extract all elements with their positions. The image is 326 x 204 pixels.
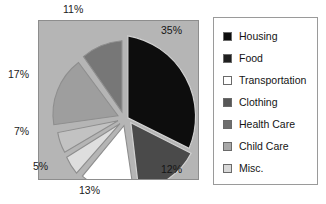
pie-chart-figure: 11% 17% 7% 5% 13% 35% 12% Housing Food T… xyxy=(0,0,326,204)
pie-svg xyxy=(39,21,198,179)
legend-label-food: Food xyxy=(239,53,263,64)
legend-label-clothing: Clothing xyxy=(239,97,278,108)
slice-label-housing: 35% xyxy=(161,24,182,36)
legend-label-misc: Misc. xyxy=(239,163,264,174)
legend-label-child-care: Child Care xyxy=(239,141,289,152)
legend-item-health-care[interactable]: Health Care xyxy=(223,113,317,135)
legend-swatch-child-care xyxy=(223,142,232,151)
legend-swatch-health-care xyxy=(223,120,232,129)
slice-label-transportation: 13% xyxy=(79,184,100,196)
legend-item-clothing[interactable]: Clothing xyxy=(223,91,317,113)
slice-label-clothing: 11% xyxy=(63,3,83,15)
legend-item-child-care[interactable]: Child Care xyxy=(223,135,317,157)
slice-label-health-care: 17% xyxy=(8,68,29,80)
slice-label-child-care: 7% xyxy=(14,125,29,137)
legend-label-transportation: Transportation xyxy=(239,75,306,86)
legend-item-transportation[interactable]: Transportation xyxy=(223,69,317,91)
legend-item-misc[interactable]: Misc. xyxy=(223,157,317,179)
legend-item-list: Housing Food Transportation Clothing Hea… xyxy=(214,18,317,184)
slice-label-misc: 5% xyxy=(33,160,48,172)
chart-plot-area xyxy=(38,20,199,180)
legend-swatch-transportation xyxy=(223,76,232,85)
legend-swatch-housing xyxy=(223,32,232,41)
chart-legend: Housing Food Transportation Clothing Hea… xyxy=(213,17,318,185)
legend-item-food[interactable]: Food xyxy=(223,47,317,69)
legend-swatch-food xyxy=(223,54,232,63)
legend-item-housing[interactable]: Housing xyxy=(223,25,317,47)
legend-swatch-clothing xyxy=(223,98,232,107)
legend-label-housing: Housing xyxy=(239,31,278,42)
legend-swatch-misc xyxy=(223,164,232,173)
slice-label-food: 12% xyxy=(161,163,182,175)
legend-label-health-care: Health Care xyxy=(239,119,295,130)
